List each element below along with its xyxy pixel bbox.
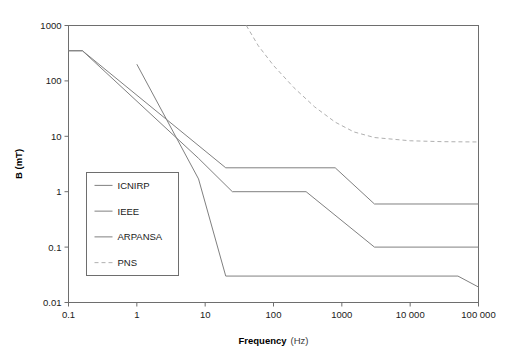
series-line-pns [246,26,478,142]
legend-label-icnirp: ICNIRP [118,180,150,191]
y-axis-ticks [65,26,69,303]
x-tick-label: 1000 [331,309,352,320]
x-tick-label: 10 000 [396,309,425,320]
y-tick-label: 1 [56,186,61,197]
legend-label-arpansa: ARPANSA [118,231,163,242]
legend-label-ieee: IEEE [118,206,140,217]
x-axis-title-text: Frequency [239,335,288,346]
x-axis-ticks [69,303,479,307]
x-tick-label: 100 000 [461,309,495,320]
y-tick-label: 100 [46,75,62,86]
x-tick-label: 100 [266,309,282,320]
y-axis-tick-labels: 0.010.11101001000 [40,20,61,308]
chart-legend: ICNIRPIEEEARPANSAPNS [87,173,179,276]
series-line-ieee [137,64,479,287]
x-tick-label: 10 [200,309,211,320]
legend-label-pns: PNS [118,257,138,268]
y-tick-label: 10 [51,131,62,142]
y-tick-label: 1000 [40,20,61,31]
x-tick-label: 1 [134,309,139,320]
y-tick-label: 0.1 [48,242,61,253]
y-tick-label: 0.01 [43,297,62,308]
x-axis-tick-labels: 0.1110100100010 000100 000 [62,309,496,320]
x-axis-title: Frequency(Hz) [239,335,309,346]
x-tick-label: 0.1 [62,309,75,320]
y-axis-title: B (mT) [13,149,24,179]
chart-container: 0.1110100100010 000100 000 0.010.1110100… [0,0,506,359]
x-axis-title-unit: (Hz) [291,335,309,346]
log-log-line-chart: 0.1110100100010 000100 000 0.010.1110100… [0,0,506,359]
